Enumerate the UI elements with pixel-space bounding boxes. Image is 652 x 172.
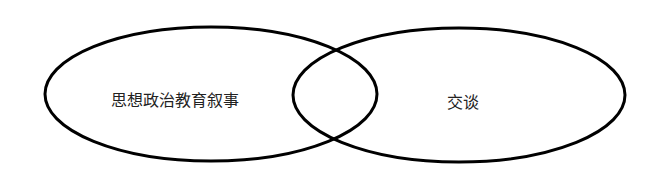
- venn-diagram: [0, 0, 652, 172]
- right-set-label: 交谈: [447, 89, 479, 113]
- left-set-label: 思想政治教育叙事: [111, 87, 239, 111]
